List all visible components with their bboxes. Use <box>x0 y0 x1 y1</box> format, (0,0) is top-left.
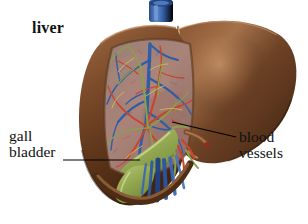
label-blood-vessels-line2: vessels <box>239 145 283 161</box>
label-blood-vessels: blood vessels <box>239 129 283 161</box>
label-blood-vessels-line1: blood <box>239 129 283 145</box>
liver-anatomy-figure: liver gall bladder blood vessels <box>0 0 308 224</box>
vena-cava-top <box>149 0 173 22</box>
label-gall-bladder-line1: gall <box>9 128 55 144</box>
label-liver: liver <box>32 20 64 36</box>
label-gall-bladder: gall bladder <box>9 128 55 160</box>
label-gall-bladder-line2: bladder <box>9 144 55 160</box>
